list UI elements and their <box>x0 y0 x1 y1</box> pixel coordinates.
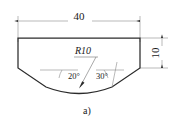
technical-drawing-figure: 40 10 20° 30° <box>0 0 184 123</box>
extension-lines <box>18 16 168 68</box>
radius-annotation-R10: R10 <box>74 45 98 89</box>
engineering-drawing-canvas: 40 10 20° 30° <box>0 0 184 123</box>
figure-caption: a) <box>83 105 91 117</box>
dimension-width-value: 40 <box>74 10 86 22</box>
angle-arc-20 <box>59 70 62 78</box>
radius-leader-arrowhead <box>79 81 85 88</box>
radius-value: R10 <box>74 45 91 56</box>
angle-reference-right-vertical <box>112 62 117 87</box>
dimension-height-10: 10 <box>149 38 165 68</box>
angle-label-30: 30° <box>96 70 108 81</box>
dimension-height-value: 10 <box>149 47 161 59</box>
angle-label-20: 20° <box>59 70 80 81</box>
angle-value-left: 20° <box>68 71 80 81</box>
angle-value-right: 30° <box>96 71 108 81</box>
dimension-width-40: 40 <box>18 10 140 23</box>
